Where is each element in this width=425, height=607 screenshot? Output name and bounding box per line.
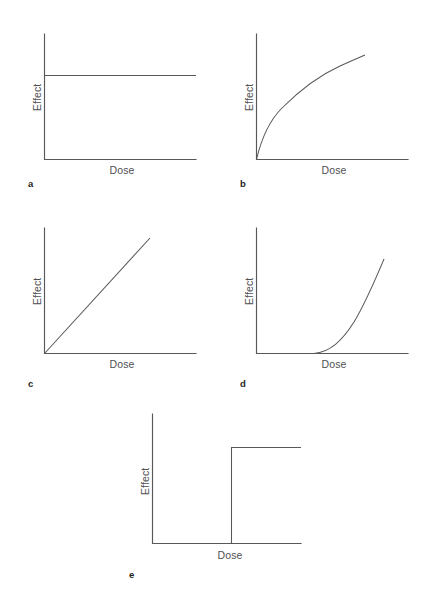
panel-b-xlabel: Dose [304, 164, 364, 176]
panel-d-letter: d [240, 378, 246, 389]
panel-e-curve [232, 448, 302, 544]
panel-e-axes [153, 414, 302, 544]
panel-c-ylabel: Effect [31, 245, 43, 305]
panel-a-plot [30, 28, 205, 168]
panel-b-curve [257, 55, 366, 160]
panel-c-letter: c [28, 378, 33, 389]
panel-b-letter: b [240, 178, 246, 189]
dose-response-figure: Effect Dose a Effect Dose b Effect Dose … [0, 0, 425, 607]
panel-c [30, 222, 205, 362]
panel-b-ylabel: Effect [243, 51, 255, 111]
panel-c-curve [45, 238, 151, 354]
panel-b [242, 28, 417, 168]
panel-e [138, 408, 313, 548]
panel-e-letter: e [129, 569, 134, 580]
panel-a-letter: a [28, 178, 33, 189]
panel-c-xlabel: Dose [92, 358, 152, 370]
panel-a [30, 28, 205, 168]
panel-d-plot [242, 222, 417, 362]
panel-e-ylabel: Effect [139, 435, 151, 495]
panel-c-plot [30, 222, 205, 362]
panel-a-ylabel: Effect [31, 51, 43, 111]
panel-b-plot [242, 28, 417, 168]
panel-a-xlabel: Dose [92, 164, 152, 176]
panel-a-axes [45, 34, 197, 160]
panel-d [242, 222, 417, 362]
panel-d-curve [314, 259, 384, 354]
panel-b-axes [257, 34, 409, 160]
panel-d-axes [257, 228, 409, 354]
panel-c-axes [45, 228, 197, 354]
panel-e-xlabel: Dose [200, 549, 260, 561]
panel-d-xlabel: Dose [304, 358, 364, 370]
panel-e-plot [138, 408, 313, 548]
panel-d-ylabel: Effect [243, 245, 255, 305]
